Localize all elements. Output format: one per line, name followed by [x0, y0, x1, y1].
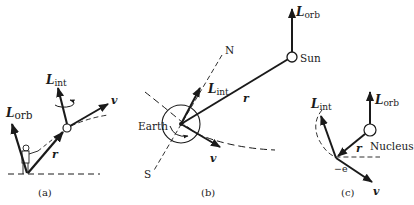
v-label-c: v	[373, 185, 380, 198]
panel-b: Earth Sun N S Lint Lorb r v (b)	[138, 5, 321, 198]
v-label-a: v	[111, 94, 118, 107]
angular-momentum-diagram: Lorb Lint r v (a) Earth Sun N S Lint Lor…	[0, 0, 414, 205]
l-orb-label-a: Lorb	[5, 106, 33, 121]
caption-a: (a)	[38, 187, 52, 198]
spin-rotation-icon	[55, 100, 74, 107]
v-label-b: v	[210, 152, 217, 165]
panel-c: Lint Lorb Nucleus r −e v (c)	[310, 92, 414, 198]
sun-label: Sun	[300, 52, 321, 64]
r-label-a: r	[52, 148, 59, 161]
l-int-vector-a	[58, 88, 67, 124]
north-label: N	[225, 44, 234, 56]
trajectory-a	[71, 115, 108, 126]
south-label: S	[144, 168, 151, 180]
l-orb-label-b: Lorb	[295, 5, 320, 20]
r-label-b: r	[243, 92, 250, 105]
panel-a: Lorb Lint r v (a)	[5, 73, 118, 198]
v-vector-a	[70, 104, 108, 126]
r-label-c: r	[356, 142, 363, 155]
l-int-vector-c	[321, 116, 336, 158]
nucleus	[364, 124, 376, 136]
l-int-label-a: Lint	[45, 73, 67, 88]
nucleus-label: Nucleus	[370, 140, 414, 152]
v-vector-b	[181, 124, 220, 147]
l-int-label-c: Lint	[310, 97, 332, 112]
sun	[287, 52, 297, 62]
caption-b: (b)	[201, 187, 215, 198]
earth-label: Earth	[138, 120, 168, 132]
electron-label: −e	[334, 163, 348, 174]
l-int-label-b: Lint	[207, 82, 229, 97]
l-orb-label-c: Lorb	[374, 93, 399, 108]
caption-c: (c)	[341, 187, 355, 198]
